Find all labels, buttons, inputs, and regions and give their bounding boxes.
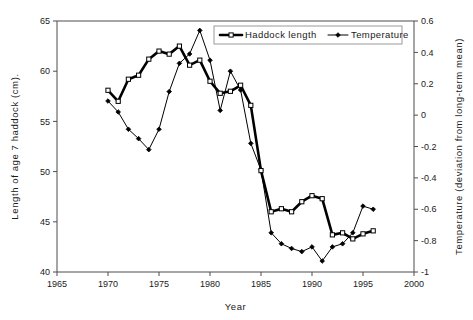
- haddock-length-data-point: [361, 232, 365, 236]
- temperature-data-point: [157, 127, 162, 132]
- haddock-length-data-point: [198, 58, 202, 62]
- y2-axis-title: Temperature (deviation from long-term me…: [453, 38, 464, 255]
- legend-label-temperature: Temperature: [351, 29, 409, 40]
- haddock-length-data-point: [188, 63, 192, 67]
- haddock-length-line: [108, 46, 373, 239]
- temperature-data-point: [249, 141, 254, 146]
- haddock-length-data-point: [147, 57, 151, 61]
- y-axis-title: Length of age 7 haddock (cm).: [9, 73, 20, 219]
- y2-tick-label: 0: [421, 110, 426, 120]
- x-axis-ticks: [57, 272, 414, 276]
- temperature-data-point: [361, 204, 366, 209]
- y-tick-label: 45: [40, 217, 50, 227]
- y-axis-left-ticks: [53, 21, 57, 272]
- y-tick-label: 65: [40, 16, 50, 26]
- y2-tick-label: -0.8: [421, 236, 437, 246]
- y-tick-label: 60: [40, 66, 50, 76]
- y2-tick-label: -0.4: [421, 173, 437, 183]
- y2-tick-label: 0.6: [421, 16, 434, 26]
- chart-container: 404550556065-1-0.8-0.6-0.4-0.200.20.40.6…: [0, 0, 473, 320]
- x-axis-title: Year: [225, 301, 247, 312]
- haddock-length-data-point: [269, 210, 273, 214]
- y-tick-label: 55: [40, 117, 50, 127]
- legend-label-haddock-length: Haddock length: [245, 29, 317, 40]
- haddock-length-data-point: [300, 200, 304, 204]
- x-tick-label: 1965: [47, 279, 67, 289]
- haddock-length-data-point: [290, 210, 294, 214]
- haddock-length-data-point: [167, 52, 171, 56]
- haddock-length-data-point: [310, 194, 314, 198]
- legend-marker-haddock-length: [229, 33, 233, 37]
- haddock-length-data-point: [239, 83, 243, 87]
- haddock-length-data-point: [106, 88, 110, 92]
- haddock-length-data-point: [228, 89, 232, 93]
- y2-tick-label: 0.4: [421, 48, 434, 58]
- temperature-data-point: [218, 108, 223, 113]
- temperature-data-point: [198, 28, 203, 33]
- y2-tick-label: -1: [421, 267, 429, 277]
- haddock-length-data-point: [279, 207, 283, 211]
- haddock-length-data-point: [320, 197, 324, 201]
- haddock-length-data-point: [208, 79, 212, 83]
- haddock-length-data-point: [341, 231, 345, 235]
- haddock-length-data-point: [351, 237, 355, 241]
- y2-tick-label: -0.2: [421, 142, 437, 152]
- x-tick-label: 1975: [149, 279, 169, 289]
- y-tick-label: 50: [40, 167, 50, 177]
- temperature-data-point: [228, 69, 233, 74]
- y2-tick-label: -0.6: [421, 204, 437, 214]
- haddock-length-data-point: [371, 229, 375, 233]
- temperature-line: [108, 30, 373, 261]
- haddock-length-data-point: [249, 103, 253, 107]
- temperature-data-point: [167, 89, 172, 94]
- haddock-length-data-point: [218, 91, 222, 95]
- haddock-length-data-point: [177, 44, 181, 48]
- series-haddock-length: [106, 44, 375, 241]
- y-tick-label: 40: [40, 267, 50, 277]
- temperature-data-point: [371, 207, 376, 212]
- y2-tick-label: 0.2: [421, 79, 434, 89]
- haddock-length-data-point: [116, 99, 120, 103]
- x-tick-label: 1985: [251, 279, 271, 289]
- x-tick-label: 1995: [353, 279, 373, 289]
- haddock-length-data-point: [126, 77, 130, 81]
- x-tick-label: 1980: [200, 279, 220, 289]
- x-tick-label: 1970: [98, 279, 118, 289]
- haddock-length-data-point: [330, 233, 334, 237]
- temperature-data-point: [208, 58, 213, 63]
- temperature-data-point: [300, 249, 305, 254]
- temperature-data-point: [289, 246, 294, 251]
- haddock-length-data-point: [259, 168, 263, 172]
- x-tick-label: 1990: [302, 279, 322, 289]
- x-tick-label: 2000: [404, 279, 424, 289]
- haddock-length-data-point: [137, 73, 141, 77]
- haddock-temperature-line-chart: 404550556065-1-0.8-0.6-0.4-0.200.20.40.6…: [0, 0, 473, 320]
- y-axis-right-ticks: [414, 21, 418, 272]
- haddock-length-data-point: [157, 49, 161, 53]
